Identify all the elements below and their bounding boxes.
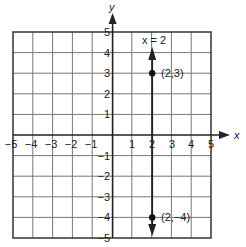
x-tick: −3 [45, 138, 58, 150]
y-tick: −3 [97, 191, 110, 203]
point-2-3 [149, 70, 155, 76]
point-2-neg4-label: (2,−4) [161, 211, 190, 223]
x-tick: 3 [169, 138, 175, 150]
line-up-arrow-icon [148, 47, 156, 60]
point-2-neg4 [149, 214, 155, 220]
x-tick: −2 [65, 138, 78, 150]
y-tick: 2 [104, 88, 110, 100]
y-tick: −4 [97, 211, 110, 223]
y-tick: −1 [97, 150, 110, 162]
line-label: x = 2 [142, 34, 166, 46]
y-tick: 1 [104, 108, 110, 120]
y-tick: 5 [104, 26, 110, 38]
x-tick: −4 [25, 138, 38, 150]
line-down-arrow-icon [148, 224, 156, 236]
point-2-3-label: (2,3) [161, 67, 184, 79]
x-tick: −5 [5, 138, 18, 150]
x-tick: 4 [188, 138, 194, 150]
coordinate-plane: x y −5 −4 −3 −2 −1 1 2 3 4 5 5 4 3 2 1 −… [0, 0, 246, 247]
x-tick: −1 [85, 138, 98, 150]
y-axis-label: y [108, 1, 116, 13]
x-axis-arrow-icon [219, 131, 230, 139]
y-tick: 4 [104, 47, 110, 59]
x-axis-label: x [233, 129, 240, 141]
y-tick: −5 [97, 232, 110, 244]
x-tick: 1 [129, 138, 135, 150]
y-tick: 3 [104, 67, 110, 79]
y-tick: −2 [97, 170, 110, 182]
x-tick-labels: −5 −4 −3 −2 −1 1 2 3 4 5 [5, 138, 214, 150]
y-axis-arrow-icon [109, 13, 117, 24]
x-tick: 5 [208, 138, 214, 150]
